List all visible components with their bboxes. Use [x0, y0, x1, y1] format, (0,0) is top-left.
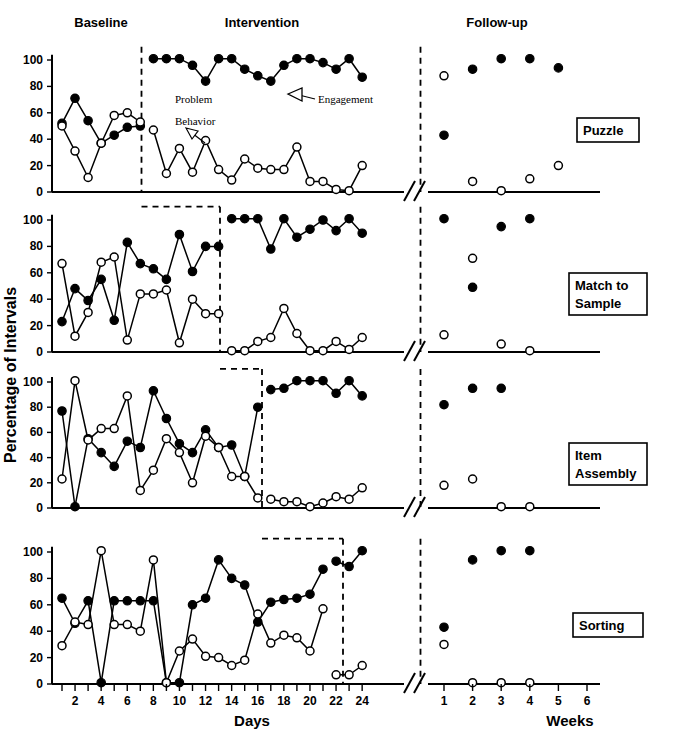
- data-point-problem-behavior: [110, 425, 118, 433]
- followup-point-engagement: [497, 384, 505, 392]
- followup-point-problem-behavior: [440, 331, 448, 339]
- data-point-problem-behavior: [332, 185, 340, 193]
- data-point-engagement: [306, 377, 314, 385]
- data-point-problem-behavior: [149, 126, 157, 134]
- data-point-problem-behavior: [280, 304, 288, 312]
- panel-2: 020406080100: [23, 207, 600, 361]
- data-point-engagement: [241, 581, 249, 589]
- y-tick-label: 0: [36, 185, 43, 199]
- data-point-problem-behavior: [71, 618, 79, 626]
- data-point-engagement: [188, 61, 196, 69]
- data-point-engagement: [71, 503, 79, 511]
- data-point-problem-behavior: [293, 498, 301, 506]
- y-tick-label: 60: [30, 266, 44, 280]
- data-point-problem-behavior: [332, 493, 340, 501]
- y-tick-label: 20: [30, 476, 44, 490]
- panel-label-text: Item: [575, 448, 602, 463]
- data-point-problem-behavior: [84, 436, 92, 444]
- data-point-problem-behavior: [175, 339, 183, 347]
- x-tick-label-day: 12: [199, 694, 213, 708]
- panel-label-box-3: ItemAssembly: [569, 443, 647, 485]
- data-point-problem-behavior: [254, 164, 262, 172]
- data-point-engagement: [110, 131, 118, 139]
- axis-break-mark-1: [404, 181, 415, 201]
- data-point-engagement: [358, 547, 366, 555]
- data-point-engagement: [188, 267, 196, 275]
- data-point-problem-behavior: [241, 347, 249, 355]
- followup-point-problem-behavior: [497, 187, 505, 195]
- x-tick-label-day: 2: [72, 694, 79, 708]
- data-point-problem-behavior: [306, 347, 314, 355]
- data-point-problem-behavior: [215, 444, 223, 452]
- x-tick-label-week: 1: [441, 694, 448, 708]
- data-point-engagement: [241, 65, 249, 73]
- y-tick-label: 80: [30, 571, 44, 585]
- data-point-engagement: [345, 562, 353, 570]
- x-tick-label-day: 20: [303, 694, 317, 708]
- data-point-problem-behavior: [162, 170, 170, 178]
- followup-point-problem-behavior: [497, 503, 505, 511]
- data-point-engagement: [254, 72, 262, 80]
- data-point-engagement: [201, 242, 209, 250]
- y-tick-label: 100: [23, 213, 43, 227]
- followup-point-engagement: [497, 55, 505, 63]
- data-point-engagement: [332, 389, 340, 397]
- followup-point-engagement: [468, 283, 476, 291]
- data-point-problem-behavior: [293, 330, 301, 338]
- x-tick-label-day: 4: [98, 694, 105, 708]
- x-tick-label-day: 8: [150, 694, 157, 708]
- y-tick-label: 40: [30, 451, 44, 465]
- data-point-engagement: [136, 597, 144, 605]
- data-point-problem-behavior: [306, 647, 314, 655]
- followup-point-problem-behavior: [440, 481, 448, 489]
- data-point-problem-behavior: [241, 656, 249, 664]
- data-point-problem-behavior: [332, 671, 340, 679]
- data-point-problem-behavior: [162, 286, 170, 294]
- data-point-problem-behavior: [280, 166, 288, 174]
- panel-label-box-2: Match toSample: [569, 273, 647, 315]
- y-tick-label: 80: [30, 79, 44, 93]
- data-point-engagement: [97, 275, 105, 283]
- data-point-engagement: [149, 55, 157, 63]
- followup-point-problem-behavior: [526, 503, 534, 511]
- data-point-problem-behavior: [215, 166, 223, 174]
- panel-label-box-4: Sorting: [573, 613, 643, 637]
- data-point-problem-behavior: [189, 168, 197, 176]
- panel-1: 020406080100: [23, 47, 600, 201]
- data-point-engagement: [201, 594, 209, 602]
- data-point-problem-behavior: [241, 473, 249, 481]
- y-tick-label: 80: [30, 400, 44, 414]
- data-point-problem-behavior: [254, 494, 262, 502]
- data-point-engagement: [149, 387, 157, 395]
- data-point-problem-behavior: [84, 174, 92, 182]
- data-point-problem-behavior: [319, 605, 327, 613]
- axis-break-mark-2: [414, 673, 425, 693]
- data-point-problem-behavior: [267, 334, 275, 342]
- data-point-engagement: [162, 55, 170, 63]
- data-point-problem-behavior: [97, 258, 105, 266]
- annotation-problem-behavior-line2: Behavior: [175, 115, 216, 127]
- y-tick-label: 100: [23, 375, 43, 389]
- followup-point-problem-behavior: [469, 177, 477, 185]
- y-tick-label: 0: [36, 501, 43, 515]
- data-point-problem-behavior: [175, 449, 183, 457]
- followup-point-engagement: [526, 215, 534, 223]
- data-point-engagement: [267, 385, 275, 393]
- data-point-problem-behavior: [149, 290, 157, 298]
- panel-label-text: Match to: [575, 278, 629, 293]
- data-point-problem-behavior: [175, 144, 183, 152]
- x-tick-label-week: 6: [584, 694, 591, 708]
- data-point-problem-behavior: [97, 547, 105, 555]
- data-point-problem-behavior: [123, 336, 131, 344]
- data-point-engagement: [293, 594, 301, 602]
- panel-3: 020406080100: [23, 369, 600, 517]
- followup-point-engagement: [497, 547, 505, 555]
- phase-header-baseline: Baseline: [74, 15, 127, 30]
- data-point-engagement: [358, 73, 366, 81]
- data-point-problem-behavior: [280, 498, 288, 506]
- panel-label-text: Puzzle: [583, 123, 623, 138]
- data-point-engagement: [175, 440, 183, 448]
- followup-point-engagement: [497, 222, 505, 230]
- data-point-engagement: [228, 55, 236, 63]
- data-point-problem-behavior: [175, 647, 183, 655]
